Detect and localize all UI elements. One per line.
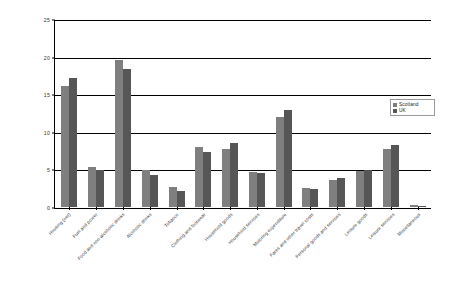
y-tick-label-0: 0 <box>47 205 50 211</box>
bar-scotland <box>410 205 418 207</box>
x-label-slot: Tobacco <box>163 210 190 287</box>
y-tick-mark-25 <box>52 20 55 21</box>
bar-group <box>351 20 378 207</box>
bar-group <box>270 20 297 207</box>
y-tick-mark-0 <box>52 208 55 209</box>
y-tick-mark-5 <box>52 170 55 171</box>
plot-area: 0510152025 <box>54 20 431 209</box>
x-axis-labels: Housing (net)Fuel and powerFood and non-… <box>55 210 432 287</box>
x-label-slot: Household services <box>243 210 270 287</box>
bar-group <box>136 20 163 207</box>
legend-item-uk: UK <box>393 108 432 113</box>
x-label-slot: Clothing and footwear <box>190 210 217 287</box>
bar-group <box>56 20 83 207</box>
x-label-slot: Miscellaneous <box>405 210 432 287</box>
y-tick-label-15: 15 <box>44 92 50 98</box>
bars-layer <box>56 20 431 207</box>
bar-uk <box>391 145 399 207</box>
bar-uk <box>310 189 318 207</box>
x-axis-label: Tobacco <box>164 212 180 228</box>
x-label-slot: Leisure services <box>378 210 405 287</box>
y-tick-label-25: 25 <box>44 17 50 23</box>
bar-chart: 0510152025 Housing (net)Fuel and powerFo… <box>0 0 449 287</box>
bar-group <box>324 20 351 207</box>
y-tick-label-20: 20 <box>44 55 50 61</box>
y-tick-mark-10 <box>52 132 55 133</box>
bar-uk <box>69 78 77 207</box>
bar-uk <box>150 175 158 207</box>
bar-uk <box>284 110 292 207</box>
bar-uk <box>96 170 104 207</box>
y-tick-mark-15 <box>52 95 55 96</box>
legend-label-uk: UK <box>399 108 406 113</box>
bar-group <box>190 20 217 207</box>
bar-scotland <box>142 170 150 207</box>
bar-scotland <box>302 188 310 207</box>
gridline-0 <box>55 208 431 209</box>
y-tick-label-10: 10 <box>44 130 50 136</box>
x-label-slot: Food and non-alcoholic drinks <box>109 210 136 287</box>
x-label-slot: Housing (net) <box>55 210 82 287</box>
x-label-slot: Personal goods and services <box>324 210 351 287</box>
bar-scotland <box>249 172 257 207</box>
bar-uk <box>123 69 131 207</box>
x-axis-label: Housing (net) <box>48 212 72 236</box>
bar-scotland <box>276 117 284 207</box>
bar-scotland <box>88 167 96 207</box>
bar-scotland <box>195 147 203 207</box>
bar-uk <box>257 173 265 207</box>
bar-uk <box>230 143 238 207</box>
bar-group <box>217 20 244 207</box>
bar-scotland <box>356 171 364 207</box>
bar-uk <box>203 152 211 207</box>
legend-label-scotland: Scotland <box>399 102 418 107</box>
bar-uk <box>418 206 426 207</box>
bar-scotland <box>222 149 230 207</box>
chart-legend: Scotland UK <box>390 99 435 116</box>
x-label-slot: Household goods <box>217 210 244 287</box>
bar-group <box>110 20 137 207</box>
legend-swatch-scotland <box>393 103 397 107</box>
bar-group <box>83 20 110 207</box>
y-tick-label-5: 5 <box>47 167 50 173</box>
bar-group <box>163 20 190 207</box>
legend-swatch-uk <box>393 109 397 113</box>
bar-group <box>243 20 270 207</box>
bar-scotland <box>329 180 337 207</box>
bar-scotland <box>115 60 123 207</box>
x-label-slot: Leisure goods <box>351 210 378 287</box>
bar-group <box>297 20 324 207</box>
x-label-slot: Alcoholic drinks <box>136 210 163 287</box>
bar-uk <box>364 170 372 207</box>
y-tick-mark-20 <box>52 57 55 58</box>
bar-uk <box>177 191 185 207</box>
bar-scotland <box>383 149 391 207</box>
legend-item-scotland: Scotland <box>393 102 432 107</box>
bar-uk <box>337 178 345 207</box>
bar-scotland <box>61 86 69 207</box>
bar-scotland <box>169 187 177 207</box>
